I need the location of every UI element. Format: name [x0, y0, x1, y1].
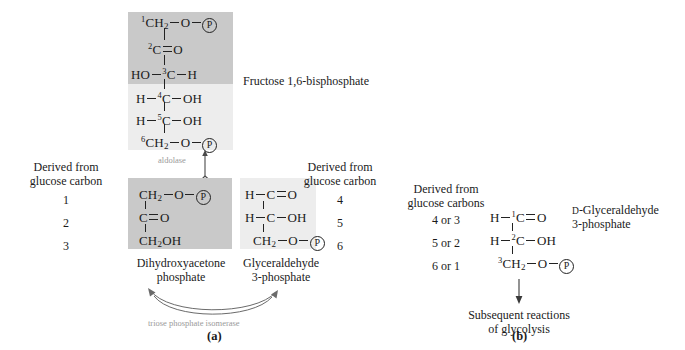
fbp-c3-right: H [188, 67, 198, 82]
phosphate-icon: P [202, 138, 217, 153]
phosphate-icon: P [202, 18, 217, 33]
bond [501, 217, 510, 218]
bond [549, 263, 558, 264]
g3p-r2-right: OH [537, 233, 556, 248]
double-bond [526, 214, 535, 220]
fbp-row-4: H4COH [136, 90, 202, 107]
dhap-bond-2-3 [145, 224, 146, 232]
bond [256, 217, 265, 218]
left-legend-number-1: 1 [14, 193, 118, 207]
left-legend-number-3: 3 [14, 239, 118, 253]
right-legend-number-5: 5 [288, 216, 392, 230]
fbp-row-2: 2CO [148, 41, 183, 58]
g3p-name-line2: 3-phosphate [572, 217, 631, 231]
dhap-r2-center: C [139, 210, 148, 225]
aldolase-label: aldolase [158, 155, 186, 165]
g3p-name-prefix: D [572, 206, 579, 216]
bond [278, 240, 287, 241]
fbp-c2-center: C [152, 42, 161, 57]
g3p-row-3: 3CH2OP [498, 255, 574, 274]
g3p-row-2: H2COH [490, 232, 556, 249]
fbp-bond-c2-c3 [164, 55, 165, 65]
gap-name-line2: 3-phosphate [226, 270, 336, 284]
bond [164, 194, 173, 195]
bond [152, 74, 161, 75]
gap-r1-center: C [267, 187, 276, 202]
subsequent-reactions-line1: Subsequent reactions [452, 308, 586, 322]
panel-b-legend-number-1: 4 or 3 [396, 213, 496, 227]
g3p-bond-1-2 [512, 223, 513, 231]
fbp-c6-center: CH2 [145, 135, 168, 150]
gap-bond-2-3 [263, 224, 264, 232]
bond [170, 142, 179, 143]
g3p-name-main: -Glyceraldehyde [579, 203, 659, 217]
bond [526, 240, 535, 241]
dhap-row-1: CH2OP [139, 187, 211, 205]
fbp-row-1: 1CH2OP [141, 14, 217, 33]
bond [192, 22, 201, 23]
panel-b-legend-number-2: 5 or 2 [396, 236, 496, 250]
g3p-r1-right: O [537, 210, 547, 225]
dhap-bond-1-2 [145, 201, 146, 209]
dhap-r1-center: CH2 [139, 187, 162, 202]
left-legend-line1: Derived from [14, 160, 118, 174]
g3p-name-line1: D-Glyceraldehyde [572, 203, 659, 218]
fbp-c6-right: O [181, 135, 191, 150]
g3p-row-1: H1CO [490, 209, 547, 226]
fbp-c3-center: C [167, 67, 176, 82]
dhap-r2-right: O [160, 210, 170, 225]
gap-r1-left: H [245, 187, 255, 202]
fbp-bond-c5-c6 [164, 124, 165, 133]
bond [177, 74, 186, 75]
bond [256, 194, 265, 195]
fbp-bond-c1-c2 [164, 28, 165, 40]
panel-b-label: (b) [512, 329, 527, 344]
panel-a-label: (a) [207, 329, 222, 344]
fbp-bond-c4-c5 [164, 102, 165, 111]
fbp-c5-left: H [136, 113, 146, 128]
bond [185, 194, 194, 195]
g3p-r2-center: C [516, 233, 525, 248]
left-legend-number-2: 2 [14, 216, 118, 230]
g3p-r1-center: C [516, 210, 525, 225]
isomerase-label: triose phosphate isomerase [148, 318, 240, 328]
bond [501, 240, 510, 241]
left-legend-line2: glucose carbon [14, 174, 118, 188]
dhap-r3-center: CH2OH [139, 233, 181, 248]
bond [147, 120, 156, 121]
gap-bond-1-2 [263, 201, 264, 209]
bond [277, 217, 286, 218]
panel-b-legend-line2: glucose carbons [393, 196, 499, 210]
double-bond [149, 214, 158, 220]
double-bond [277, 191, 286, 197]
dhap-row-3: CH2OH [139, 233, 181, 249]
fbp-row-6: 6CH2OP [141, 134, 217, 153]
gap-r3-center: CH2 [253, 233, 276, 248]
g3p-bond-2-3 [512, 246, 513, 254]
dhap-r1-right: O [174, 187, 184, 202]
fructose-bisphosphate-label: Fructose 1,6-bisphosphate [243, 74, 369, 88]
bond [172, 98, 181, 99]
panel-b-legend-line1: Derived from [396, 182, 496, 196]
dhap-row-2: CO [139, 210, 169, 226]
double-bond [163, 46, 172, 52]
gap-name-line1: Glyceraldehyde [226, 256, 336, 270]
gap-r2-left: H [245, 210, 255, 225]
right-legend-line2: glucose carbon [288, 174, 392, 188]
fbp-row-5: H5COH [136, 112, 202, 129]
gap-r2-center: C [267, 210, 276, 225]
fbp-c4-left: H [136, 91, 146, 106]
fbp-c1-right: O [181, 15, 191, 30]
right-legend-number-4: 4 [288, 193, 392, 207]
bond [172, 120, 181, 121]
fbp-c5-right: OH [183, 113, 202, 128]
fbp-c1-center: CH2 [145, 15, 168, 30]
fbp-c3-left: HO [131, 67, 150, 82]
panel-b-legend-number-3: 6 or 1 [396, 259, 496, 273]
g3p-r3-center: CH2 [502, 256, 525, 271]
bond [527, 263, 536, 264]
phosphate-icon: P [196, 190, 211, 205]
right-legend-number-6: 6 [288, 239, 392, 253]
bond [170, 22, 179, 23]
bond [147, 98, 156, 99]
